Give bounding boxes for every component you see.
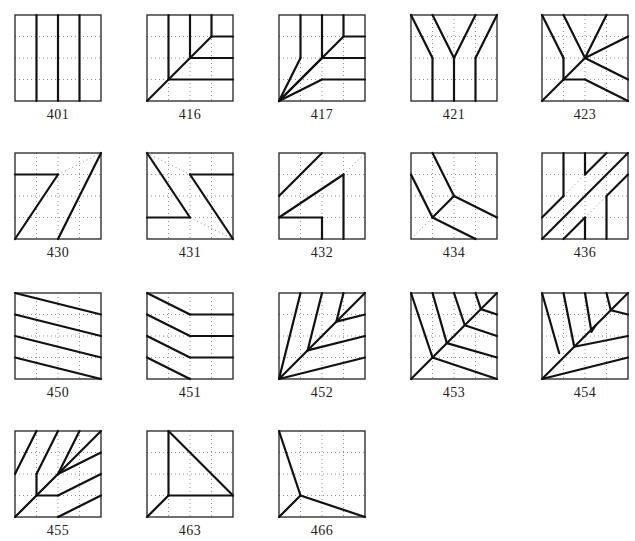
panel-number-label: 436 bbox=[541, 245, 629, 261]
diagram-panel-436: 436 bbox=[541, 152, 629, 261]
diagram-panel-455: 455 bbox=[14, 430, 102, 539]
pattern-drawing bbox=[146, 430, 234, 518]
panel-number-label: 431 bbox=[146, 245, 234, 261]
panel-number-label: 434 bbox=[410, 245, 498, 261]
diagram-panel-454: 454 bbox=[541, 292, 629, 401]
pattern-drawing bbox=[14, 430, 102, 518]
pattern-drawing bbox=[278, 14, 366, 102]
panel-number-label: 452 bbox=[278, 385, 366, 401]
diagram-panel-466: 466 bbox=[278, 430, 366, 539]
pattern-drawing bbox=[146, 152, 234, 240]
panel-number-label: 463 bbox=[146, 523, 234, 539]
pattern-drawing bbox=[410, 14, 498, 102]
diagram-panel-434: 434 bbox=[410, 152, 498, 261]
pattern-drawing bbox=[278, 430, 366, 518]
diagram-panel-463: 463 bbox=[146, 430, 234, 539]
diagram-panel-453: 453 bbox=[410, 292, 498, 401]
pattern-drawing bbox=[14, 14, 102, 102]
diagram-panel-416: 416 bbox=[146, 14, 234, 123]
pattern-drawing bbox=[541, 152, 629, 240]
pattern-drawing bbox=[146, 292, 234, 380]
panel-number-label: 454 bbox=[541, 385, 629, 401]
diagram-panel-451: 451 bbox=[146, 292, 234, 401]
pattern-drawing bbox=[278, 292, 366, 380]
panel-number-label: 417 bbox=[278, 107, 366, 123]
panel-number-label: 453 bbox=[410, 385, 498, 401]
diagram-panel-421: 421 bbox=[410, 14, 498, 123]
diagram-panel-417: 417 bbox=[278, 14, 366, 123]
panel-number-label: 432 bbox=[278, 245, 366, 261]
pattern-drawing bbox=[410, 292, 498, 380]
panel-number-label: 430 bbox=[14, 245, 102, 261]
pattern-drawing bbox=[541, 14, 629, 102]
pattern-drawing bbox=[541, 292, 629, 380]
pattern-drawing bbox=[146, 14, 234, 102]
panel-number-label: 451 bbox=[146, 385, 234, 401]
panel-number-label: 466 bbox=[278, 523, 366, 539]
diagram-panel-401: 401 bbox=[14, 14, 102, 123]
diagram-panel-432: 432 bbox=[278, 152, 366, 261]
panel-number-label: 416 bbox=[146, 107, 234, 123]
diagram-panel-452: 452 bbox=[278, 292, 366, 401]
pattern-drawing bbox=[278, 152, 366, 240]
panel-number-label: 450 bbox=[14, 385, 102, 401]
panel-number-label: 421 bbox=[410, 107, 498, 123]
diagram-panel-423: 423 bbox=[541, 14, 629, 123]
diagram-panel-430: 430 bbox=[14, 152, 102, 261]
pattern-drawing bbox=[14, 292, 102, 380]
panel-number-label: 423 bbox=[541, 107, 629, 123]
panel-number-label: 455 bbox=[14, 523, 102, 539]
pattern-drawing bbox=[14, 152, 102, 240]
diagram-panel-431: 431 bbox=[146, 152, 234, 261]
pattern-drawing bbox=[410, 152, 498, 240]
diagram-panel-450: 450 bbox=[14, 292, 102, 401]
panel-number-label: 401 bbox=[14, 107, 102, 123]
